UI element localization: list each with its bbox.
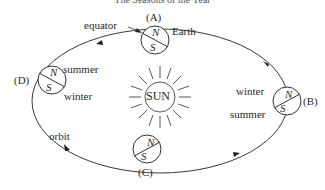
season-D-winter: winter — [64, 91, 92, 102]
sun-label: SUN — [146, 91, 170, 102]
season-D-summer: summer — [63, 64, 98, 75]
earth-label: Earth — [172, 26, 196, 37]
earth-A-south: S — [150, 42, 156, 53]
season-B-summer: summer — [230, 109, 265, 120]
earth-D-south: S — [46, 82, 52, 93]
earth-B-south: S — [280, 103, 286, 114]
position-label-B: (B) — [303, 96, 318, 107]
earth-A-north: N — [152, 27, 159, 38]
orbit-arrow-icon — [64, 144, 70, 151]
equator-label: equator — [84, 20, 117, 31]
earth-C-south: S — [141, 151, 147, 162]
season-B-winter: winter — [236, 86, 264, 97]
earth-B-north: N — [285, 89, 292, 100]
earth-C-north: N — [147, 137, 154, 148]
orbit-arrow-icon — [233, 152, 240, 157]
position-label-D: (D) — [14, 75, 29, 86]
equator-pointer-icon — [135, 28, 142, 33]
orbit-arrow-icon — [96, 40, 103, 45]
earth-D-north: N — [50, 67, 57, 78]
position-label-C: (C) — [138, 167, 153, 178]
position-label-A: (A) — [146, 12, 161, 23]
orbit-label: orbit — [49, 131, 70, 142]
